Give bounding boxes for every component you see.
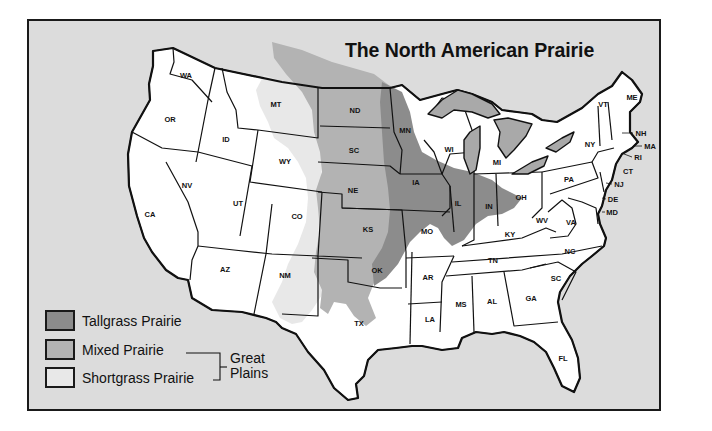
state-label-ks: KS — [363, 225, 373, 234]
state-label-vt: VT — [598, 100, 608, 109]
state-label-ky: KY — [505, 230, 515, 239]
state-label-ar: AR — [423, 273, 434, 282]
state-label-ga: GA — [525, 294, 537, 303]
state-label-wa: WA — [180, 71, 193, 80]
state-label-ms: MS — [455, 300, 466, 309]
legend-label-shortgrass: Shortgrass Prairie — [82, 370, 194, 386]
mixed-swatch — [45, 339, 75, 360]
state-label-mt: MT — [271, 100, 282, 109]
state-label-wv: WV — [536, 216, 548, 225]
state-label-or: OR — [164, 115, 176, 124]
state-label-ne: NE — [348, 186, 358, 195]
state-label-sd: SC — [349, 146, 360, 155]
state-label-ca: CA — [145, 210, 156, 219]
state-label-al: AL — [487, 297, 497, 306]
state-label-va: VA — [566, 218, 576, 227]
state-label-ri: RI — [634, 153, 642, 162]
state-label-mn: MN — [399, 126, 411, 135]
state-label-in: IN — [485, 202, 493, 211]
state-label-id: ID — [222, 135, 230, 144]
state-label-wi: WI — [444, 145, 453, 154]
state-label-me: ME — [626, 93, 637, 102]
legend-item-tallgrass: Tallgrass Prairie — [45, 310, 182, 331]
state-label-tn: TN — [488, 256, 498, 265]
state-label-mi: MI — [493, 158, 501, 167]
tallgrass-swatch — [45, 310, 75, 331]
state-label-md: MD — [606, 208, 618, 217]
state-label-nv: NV — [182, 181, 192, 190]
state-label-co: CO — [291, 212, 302, 221]
state-label-nh: NH — [636, 129, 647, 138]
great-plains-label: Great Plains — [230, 351, 268, 381]
state-label-nm: NM — [279, 271, 291, 280]
state-label-nj: NJ — [614, 180, 624, 189]
state-label-ct: CT — [623, 167, 633, 176]
state-label-ok: OK — [371, 266, 383, 275]
state-label-nc: NC — [565, 247, 576, 256]
state-label-sc: SC — [551, 274, 562, 283]
state-label-ia: IA — [412, 178, 420, 187]
state-label-mo: MO — [421, 227, 433, 236]
legend-item-mixed: Mixed Prairie — [45, 339, 164, 360]
state-label-fl: FL — [558, 354, 568, 363]
state-label-ut: UT — [233, 199, 243, 208]
map-title: The North American Prairie — [345, 39, 594, 62]
state-label-de: DE — [608, 195, 618, 204]
great-plains-line1: Great — [230, 351, 268, 366]
legend-label-mixed: Mixed Prairie — [82, 342, 164, 358]
state-label-nd: ND — [350, 106, 361, 115]
state-label-oh: OH — [515, 193, 526, 202]
state-label-ma: MA — [644, 142, 656, 151]
state-label-il: IL — [455, 199, 462, 208]
state-label-pa: PA — [564, 175, 574, 184]
state-label-la: LA — [425, 315, 436, 324]
state-label-wy: WY — [279, 157, 291, 166]
legend-label-tallgrass: Tallgrass Prairie — [82, 313, 182, 329]
legend-item-shortgrass: Shortgrass Prairie — [45, 367, 194, 388]
state-label-tx: TX — [354, 319, 364, 328]
great-plains-line2: Plains — [230, 366, 268, 381]
state-label-ny: NY — [585, 140, 595, 149]
shortgrass-swatch — [45, 367, 75, 388]
state-label-az: AZ — [220, 265, 230, 274]
